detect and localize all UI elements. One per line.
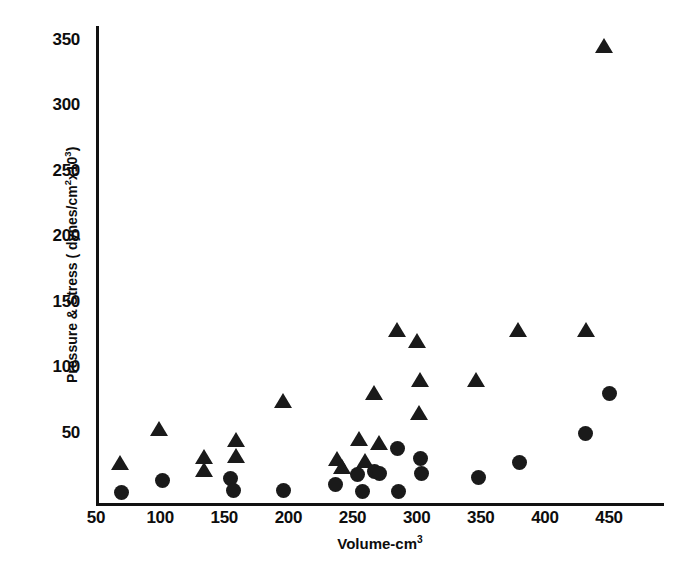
data-point-triangle: [509, 322, 527, 337]
data-point-circle: [512, 455, 527, 470]
data-point-triangle: [370, 435, 388, 450]
data-point-circle: [114, 485, 129, 500]
data-point-circle: [471, 470, 486, 485]
data-point-triangle: [577, 322, 595, 337]
data-point-triangle: [411, 372, 429, 387]
data-point-triangle: [227, 432, 245, 447]
data-point-triangle: [408, 333, 426, 348]
data-point-circle: [413, 451, 428, 466]
data-point-triangle: [333, 459, 351, 474]
data-point-triangle: [365, 385, 383, 400]
data-point-circle: [602, 386, 617, 401]
data-point-triangle: [195, 462, 213, 477]
data-point-triangle: [410, 405, 428, 420]
data-point-circle: [391, 484, 406, 499]
plot-data-area: [0, 0, 680, 569]
data-point-triangle: [111, 455, 129, 470]
data-point-triangle: [150, 421, 168, 436]
data-point-circle: [328, 477, 343, 492]
data-point-circle: [276, 483, 291, 498]
data-point-circle: [155, 473, 170, 488]
data-point-triangle: [274, 393, 292, 408]
data-point-circle: [578, 426, 593, 441]
data-point-circle: [355, 484, 370, 499]
data-point-triangle: [595, 38, 613, 53]
data-point-circle: [350, 467, 365, 482]
data-point-triangle: [227, 448, 245, 463]
data-point-circle: [372, 466, 387, 481]
data-point-triangle: [388, 322, 406, 337]
scatter-plot-figure: Pressure & Stress ( dynes/cm2x103) Volum…: [0, 0, 680, 569]
data-point-circle: [226, 483, 241, 498]
data-point-triangle: [467, 372, 485, 387]
data-point-circle: [414, 466, 429, 481]
data-point-triangle: [350, 431, 368, 446]
data-point-circle: [390, 441, 405, 456]
